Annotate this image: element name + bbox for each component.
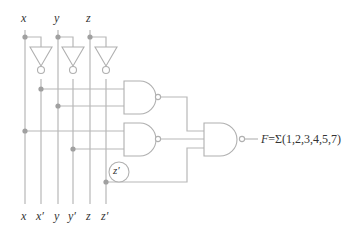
rail-label-z-prime: z′ xyxy=(101,210,108,222)
nand-gate-3 xyxy=(204,123,245,156)
inverter-y xyxy=(62,47,84,74)
tap-x xyxy=(25,37,41,47)
logic-circuit-diagram: x y z x x′ y y′ z z′ z′ F=Σ(1,2,3,4,5,7) xyxy=(0,0,359,235)
nand-gate-2 xyxy=(124,123,161,156)
rail-label-x-prime: x′ xyxy=(36,210,44,222)
rail-label-z: z xyxy=(86,210,91,222)
wire-nand1-nand3 xyxy=(160,97,204,131)
tap-z xyxy=(90,37,106,47)
input-label-x: x xyxy=(21,12,26,24)
output-formula: =Σ(1,2,3,4,5,7) xyxy=(268,132,341,146)
inverter-z xyxy=(95,47,117,74)
rail-label-x: x xyxy=(21,210,26,222)
output-expression: F=Σ(1,2,3,4,5,7) xyxy=(261,133,341,145)
input-label-y: y xyxy=(54,12,59,24)
input-label-z: z xyxy=(86,12,91,24)
rail-label-y-prime: y′ xyxy=(68,210,76,222)
circuit-svg xyxy=(0,0,359,235)
rail-label-y: y xyxy=(54,210,59,222)
tap-y xyxy=(58,37,73,47)
inverter-x xyxy=(30,47,52,74)
nand-gate-1 xyxy=(124,81,161,114)
zprime-annotation-label: z′ xyxy=(113,165,120,176)
